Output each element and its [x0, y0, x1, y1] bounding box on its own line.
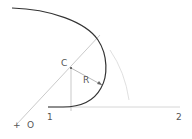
label-c: C — [61, 58, 67, 68]
label-1: 1 — [47, 112, 53, 122]
radius-arrowhead — [97, 81, 102, 85]
label-r: R — [83, 75, 89, 85]
origin-cross-icon: + — [13, 120, 21, 130]
geometry-diagram: C R + O 1 2 — [0, 0, 192, 139]
label-o: O — [27, 120, 34, 130]
faint-arc — [110, 50, 129, 100]
center-point — [70, 67, 72, 69]
label-2: 2 — [176, 112, 182, 122]
main-curve — [12, 8, 106, 107]
